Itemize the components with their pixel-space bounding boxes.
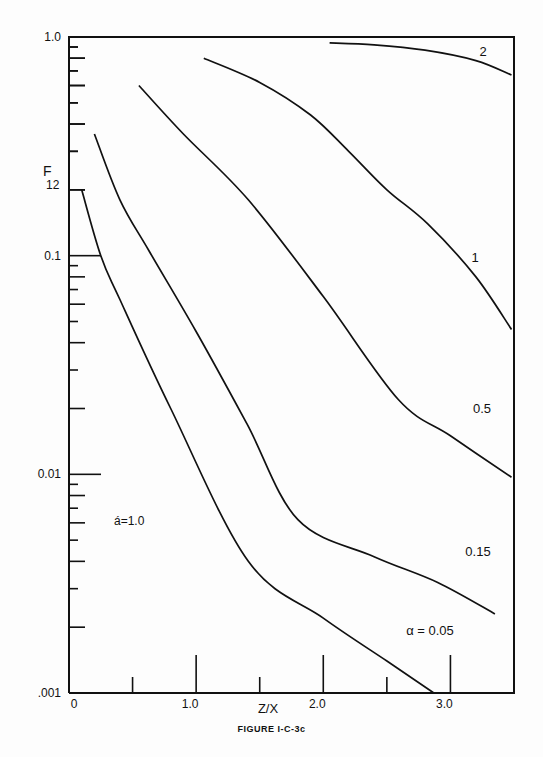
y-tick-label: .001 bbox=[38, 686, 62, 700]
y-tick-label: 1.0 bbox=[44, 30, 61, 44]
x-axis-ticks: 01.02.03.0Z/X bbox=[71, 655, 453, 716]
labels: 210.50.15α = 0.05á=1.0 bbox=[114, 44, 491, 638]
x-tick-label: 2.0 bbox=[309, 697, 326, 711]
x-axis-label: Z/X bbox=[258, 701, 279, 716]
curve-label-1: 1 bbox=[471, 250, 478, 265]
y-tick-label: 0.1 bbox=[44, 249, 61, 263]
curve-label-2: 2 bbox=[479, 44, 486, 59]
curve-alpha-1 bbox=[204, 58, 512, 329]
figure-caption: FIGURE I-C-3c bbox=[0, 724, 543, 734]
y-tick-label: 0.01 bbox=[38, 467, 62, 481]
curve-alpha-0-05 bbox=[82, 190, 434, 693]
curve-alpha-0-5 bbox=[139, 86, 512, 478]
chart-canvas: .0010.010.11.0F12 01.02.03.0Z/X 210.50.1… bbox=[0, 0, 543, 757]
plot-frame bbox=[69, 37, 514, 693]
y-axis-label-subscript: 12 bbox=[46, 178, 60, 192]
axis-frame bbox=[69, 37, 514, 693]
curve-label-0-15: 0.15 bbox=[465, 544, 490, 559]
x-tick-label: 0 bbox=[71, 697, 78, 711]
y-axis-label: F bbox=[43, 163, 52, 179]
x-tick-label: 3.0 bbox=[436, 697, 453, 711]
annotation-label: á=1.0 bbox=[114, 514, 145, 528]
curves bbox=[82, 43, 512, 693]
x-tick-label: 1.0 bbox=[182, 697, 199, 711]
curve-label-0-05: α = 0.05 bbox=[406, 623, 454, 638]
curve-label-0-5: 0.5 bbox=[473, 401, 491, 416]
